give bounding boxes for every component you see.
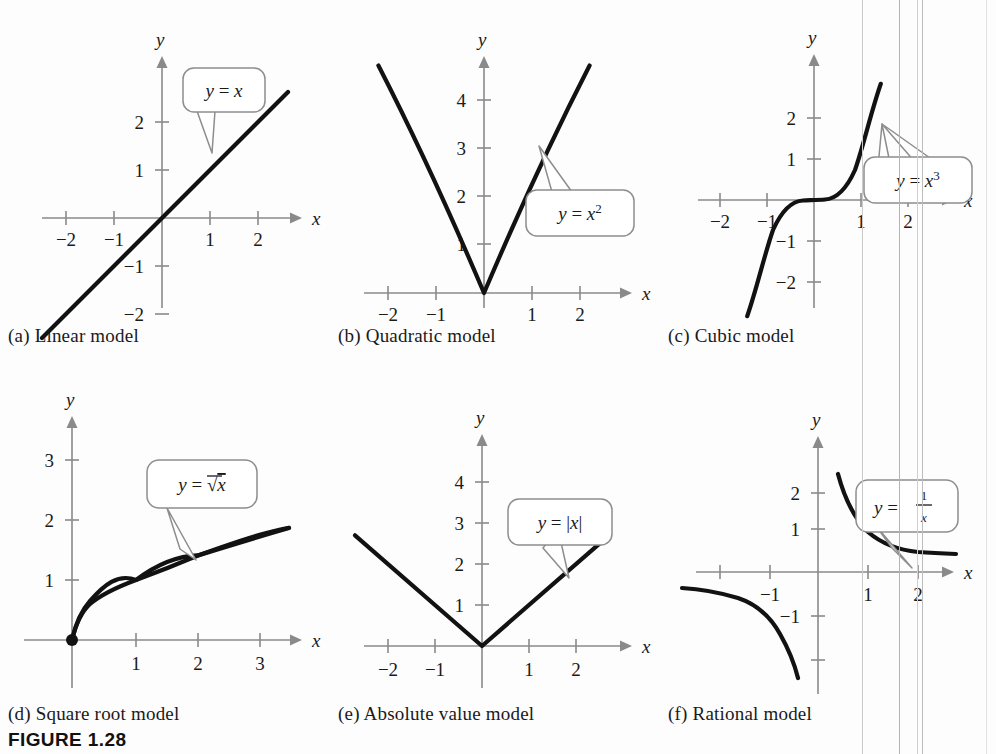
y-axis-label: y: [154, 29, 165, 50]
ytick-label: 2: [45, 510, 55, 531]
y-axis-label: y: [810, 409, 821, 430]
panel-rational: −1 1 2 2 1 −1 x y y = 1 x: [660, 398, 990, 698]
ytick-label: 3: [455, 513, 465, 534]
ytick-label: 2: [455, 554, 465, 575]
callout-label-absolute-value: y = |x|: [536, 512, 583, 533]
ytick-label: 2: [457, 186, 467, 207]
ytick-label: −2: [776, 272, 796, 293]
xtick-label: −1: [104, 229, 124, 250]
caption-linear: (a) Linear model: [8, 325, 139, 347]
xtick-label: 1: [524, 659, 534, 680]
ytick-label: 3: [45, 450, 55, 471]
figure-number-label: FIGURE 1.28: [8, 729, 126, 751]
ytick-label: 2: [135, 112, 145, 133]
ytick-label: −2: [124, 304, 144, 325]
ytick-label: −1: [780, 606, 800, 627]
xtick-label: −2: [56, 229, 76, 250]
axes-quadratic: [364, 56, 632, 308]
callout-cubic: y = x3: [864, 124, 972, 203]
x-axis-label: x: [641, 283, 651, 304]
ytick-label: 2: [791, 483, 801, 504]
y-axis-label: y: [476, 29, 487, 50]
xtick-label: −2: [710, 211, 730, 232]
axes-square-root: [24, 416, 302, 688]
x-axis-label: x: [963, 562, 973, 583]
y-axis-label: y: [64, 389, 75, 410]
callout-label-rational: y =: [872, 497, 898, 518]
caption-quadratic: (b) Quadratic model: [338, 325, 496, 347]
panel-square-root: 1 2 3 3 2 1 x y y = √x: [0, 398, 330, 698]
ytick-label: 1: [455, 595, 465, 616]
xtick-label: 2: [253, 229, 263, 250]
caption-square-root: (d) Square root model: [8, 703, 179, 725]
callout-square-root: y = √x: [147, 460, 257, 560]
axes-rational: [696, 436, 954, 694]
xtick-label: 1: [205, 229, 215, 250]
caption-absolute-value: (e) Absolute value model: [338, 703, 534, 725]
callout-label-cubic: y = x3: [894, 168, 940, 191]
xtick-label: 1: [527, 304, 537, 325]
xtick-label: 3: [255, 653, 265, 674]
xtick-label: −1: [760, 584, 780, 605]
xtick-label: 1: [863, 584, 873, 605]
y-axis-label: y: [474, 407, 485, 428]
ytick-label: 4: [457, 90, 467, 111]
ytick-label: 1: [787, 149, 797, 170]
x-axis-label: x: [311, 630, 321, 651]
x-axis-label: x: [311, 208, 321, 229]
figure-page: −2 −1 1 2 2 1 −1 −2 x y y = x: [0, 0, 996, 754]
x-axis-label: x: [641, 636, 651, 657]
ytick-label: 1: [135, 160, 145, 181]
axes-absolute-value: [364, 434, 632, 688]
callout-label-linear: y = x: [203, 80, 243, 101]
curve-rational-branch-negative: [682, 588, 798, 678]
caption-cubic: (c) Cubic model: [668, 325, 794, 347]
ytick-label: 1: [791, 519, 801, 540]
origin-dot-marker: [66, 634, 78, 646]
xtick-label: −2: [378, 659, 398, 680]
xtick-label: −1: [425, 659, 445, 680]
panel-absolute-value: −2 −1 1 2 4 3 2 1 x y y = |x|: [330, 398, 660, 698]
xtick-label: 2: [903, 211, 913, 232]
ytick-label: 1: [45, 570, 55, 591]
callout-label-square-root: y = √x: [176, 474, 226, 495]
panel-quadratic: −2 −1 1 2 4 3 2 1 x y y = x2: [330, 18, 660, 318]
ytick-label: −1: [124, 256, 144, 277]
callout-fraction-denominator: x: [920, 510, 927, 525]
curve-linear: [42, 92, 288, 338]
panel-cubic: −2 −1 1 2 2 1 −1 −2 x y y = x3: [660, 18, 990, 318]
xtick-label: 2: [193, 653, 203, 674]
callout-fraction-numerator: 1: [921, 488, 928, 503]
callout-quadratic: y = x2: [526, 146, 634, 236]
ytick-label: 3: [457, 138, 467, 159]
callout-linear: y = x: [183, 68, 265, 153]
ytick-label: 2: [787, 108, 797, 129]
ytick-label: −1: [776, 231, 796, 252]
xtick-label: 2: [571, 659, 581, 680]
panel-linear: −2 −1 1 2 2 1 −1 −2 x y y = x: [0, 18, 330, 318]
y-axis-label: y: [806, 27, 817, 48]
xtick-label: 1: [856, 211, 866, 232]
caption-rational: (f) Rational model: [668, 703, 812, 725]
xtick-label: 1: [131, 653, 141, 674]
xtick-label: −2: [378, 304, 398, 325]
xtick-label: 2: [913, 584, 923, 605]
callout-absolute-value: y = |x|: [508, 499, 612, 578]
xtick-label: 2: [575, 304, 585, 325]
callout-label-quadratic: y = x2: [556, 201, 602, 224]
xtick-label: −1: [426, 304, 446, 325]
ytick-label: 4: [455, 472, 465, 493]
